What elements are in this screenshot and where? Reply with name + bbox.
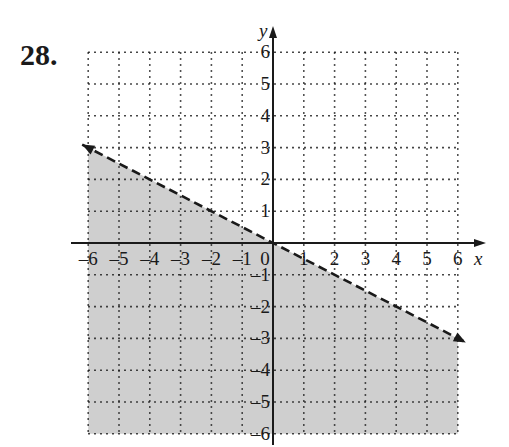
x-tick-label: –4 — [139, 248, 160, 269]
x-tick-label: 5 — [422, 248, 432, 269]
y-axis-arrow-icon — [269, 26, 277, 38]
x-axis-label: x — [473, 248, 483, 269]
y-tick-label: –6 — [250, 423, 270, 444]
y-tick-label: –5 — [250, 391, 270, 412]
y-tick-label: –1 — [250, 264, 270, 285]
y-tick-label: 1 — [261, 200, 271, 221]
y-axis-label: y — [257, 20, 268, 41]
y-tick-label: –3 — [250, 327, 270, 348]
x-tick-label: 4 — [391, 248, 401, 269]
x-tick-label: –6 — [78, 248, 98, 269]
x-tick-label: 2 — [330, 248, 340, 269]
x-tick-label: 6 — [453, 248, 463, 269]
y-tick-label: 4 — [261, 105, 271, 126]
y-tick-label: –4 — [250, 359, 271, 380]
x-axis-arrow-icon — [474, 239, 486, 247]
coordinate-graph: –6–5–4–3–2–10123456–6–5–4–3–2–1123456xy — [0, 0, 509, 447]
y-tick-label: 5 — [261, 73, 271, 94]
x-tick-label: –1 — [232, 248, 252, 269]
x-tick-label: 3 — [361, 248, 371, 269]
x-tick-label: 1 — [299, 248, 309, 269]
x-tick-label: –3 — [170, 248, 190, 269]
y-tick-label: 6 — [261, 41, 271, 62]
x-tick-label: –2 — [201, 248, 221, 269]
y-tick-label: 3 — [261, 137, 271, 158]
x-tick-label: –5 — [109, 248, 129, 269]
y-tick-label: –2 — [250, 296, 270, 317]
y-tick-label: 2 — [261, 168, 271, 189]
